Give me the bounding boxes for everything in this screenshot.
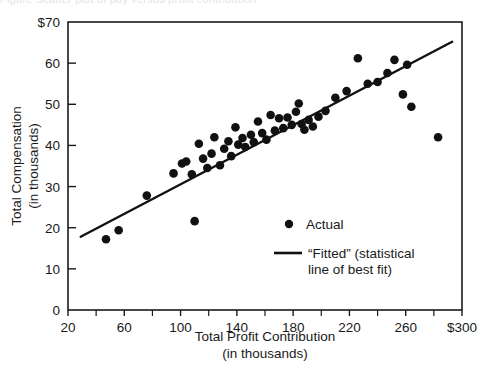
fit-line-segment (81, 42, 452, 237)
x-axis-title-main: Total Profit Contribution (195, 329, 335, 344)
data-point (266, 111, 275, 120)
data-point (182, 157, 191, 166)
data-point (434, 133, 443, 142)
data-point (399, 90, 408, 99)
data-point (190, 217, 199, 226)
data-point (342, 87, 351, 96)
y-tick-label: 50 (45, 97, 60, 112)
scatter-chart: 2060100140180220260$300 0102030405060$70… (0, 0, 489, 374)
x-axis-ticks (68, 310, 462, 316)
data-point (207, 149, 216, 158)
data-point (169, 169, 178, 178)
data-point (275, 114, 284, 123)
legend-label-fitted-line2: line of best fit) (308, 262, 392, 277)
y-tick-label: 60 (45, 56, 60, 71)
y-tick-label: 30 (45, 180, 60, 195)
data-point (354, 54, 363, 63)
y-axis-title-main: Total Compensation (9, 106, 24, 225)
data-point (294, 99, 303, 108)
data-point (247, 130, 256, 139)
x-axis-title: Total Profit Contribution (in thousands) (195, 329, 335, 361)
x-tick-label: 100 (169, 320, 192, 335)
chart-legend: Actual “Fitted” (statistical line of bes… (274, 217, 415, 277)
y-tick-label: 0 (52, 303, 60, 318)
data-point (195, 139, 204, 148)
data-point (283, 113, 292, 122)
y-tick-label: 10 (45, 262, 60, 277)
data-point (407, 102, 416, 111)
data-point (254, 117, 263, 126)
data-point (114, 226, 123, 235)
y-axis-title-sub: (in thousands) (26, 123, 41, 209)
data-point (102, 235, 111, 244)
data-point (199, 154, 208, 163)
x-tick-label: 60 (117, 320, 132, 335)
legend-label-actual: Actual (306, 217, 344, 232)
data-point (238, 134, 247, 143)
data-point (292, 107, 301, 116)
data-point (220, 144, 229, 153)
data-point (224, 137, 233, 146)
data-point (210, 133, 219, 142)
legend-marker-actual-icon (285, 220, 293, 228)
y-tick-label: 40 (45, 138, 60, 153)
x-axis-title-sub: (in thousands) (222, 346, 308, 361)
y-axis-title: Total Compensation (in thousands) (9, 106, 41, 225)
x-tick-label: 20 (60, 320, 75, 335)
y-axis-ticks (68, 63, 76, 269)
data-points-actual (102, 54, 443, 244)
data-point (309, 122, 318, 131)
x-tick-label: 220 (338, 320, 361, 335)
legend-label-fitted-line1: “Fitted” (statistical (308, 246, 415, 261)
chart-canvas: 2060100140180220260$300 0102030405060$70… (0, 0, 489, 374)
x-tick-label: $300 (447, 320, 477, 335)
fitted-line (81, 42, 452, 237)
data-point (143, 191, 152, 200)
data-point (231, 123, 240, 132)
y-tick-label: 20 (45, 221, 60, 236)
y-tick-label: $70 (37, 15, 60, 30)
data-point (390, 56, 399, 65)
x-tick-label: 260 (394, 320, 417, 335)
data-point (300, 125, 309, 134)
